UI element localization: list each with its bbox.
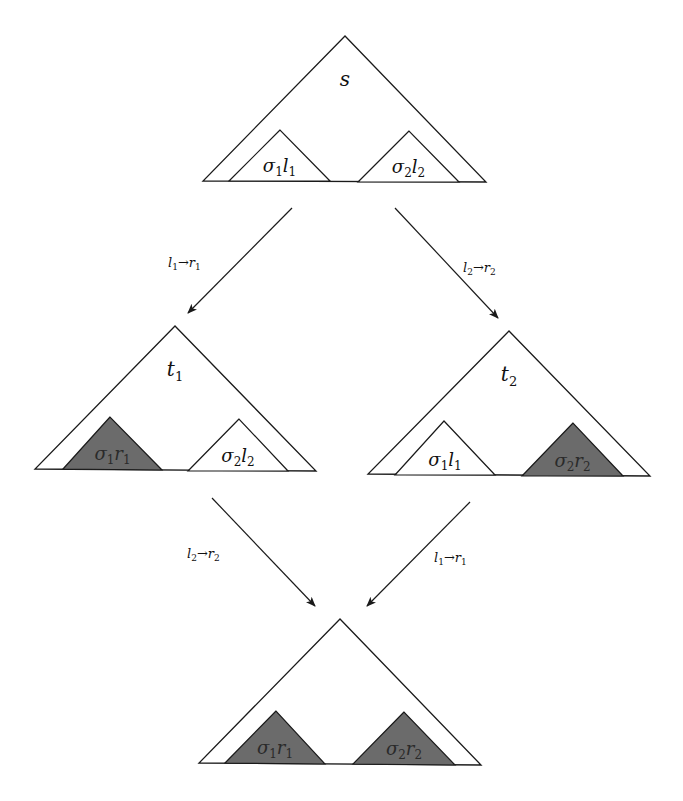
term-tree-u: σ1r1σ2r2 (199, 619, 481, 765)
rewrite-arrow-t1-to-u: l2→r2 (187, 498, 315, 606)
tree-triangle (35, 326, 316, 471)
rule-label: l2→r2 (463, 260, 496, 277)
rule-label: l1→r1 (434, 550, 467, 567)
rewrite-arrow-t2-to-u: l1→r1 (367, 502, 470, 606)
nodes-layer: sσ1l1σ2l2t1σ1r1σ2l2t2σ1l1σ2r2σ1r1σ2r2 (35, 36, 650, 765)
term-tree-s: sσ1l1σ2l2 (203, 36, 486, 182)
arrow-icon (188, 208, 292, 313)
rewrite-arrow-s-to-t1: l1→r1 (168, 208, 292, 313)
rule-label: l1→r1 (168, 255, 201, 272)
tree-triangle (203, 36, 486, 182)
tree-triangle (199, 619, 481, 765)
arrow-icon (212, 498, 315, 606)
rule-label: l2→r2 (187, 546, 220, 563)
term-tree-t2: t2σ1l1σ2r2 (368, 331, 650, 476)
term-label: s (340, 67, 350, 91)
rewrite-arrow-s-to-t2: l2→r2 (395, 208, 498, 318)
rewrite-diagram: l1→r1l2→r2l2→r2l1→r1 sσ1l1σ2l2t1σ1r1σ2l2… (0, 0, 683, 801)
term-tree-t1: t1σ1r1σ2l2 (35, 326, 316, 471)
tree-triangle (368, 331, 650, 476)
